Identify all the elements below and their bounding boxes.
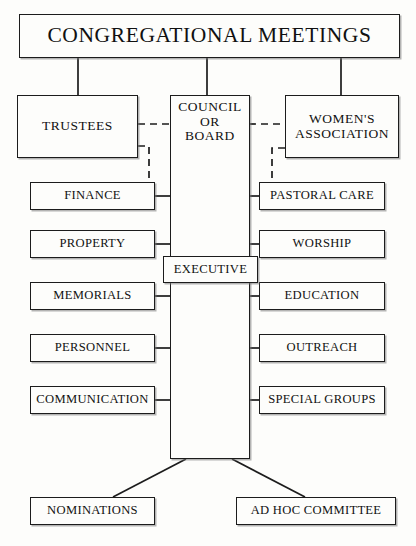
node-label-stack: COUNCIL OR BOARD: [178, 100, 242, 144]
node-label: OUTREACH: [287, 341, 358, 355]
node-pastoral-care[interactable]: PASTORAL CARE: [259, 182, 385, 210]
node-label: PROPERTY: [59, 237, 125, 251]
node-label: SPECIAL GROUPS: [268, 393, 376, 407]
node-label-line2: OR: [178, 115, 242, 130]
node-womens-association[interactable]: WOMEN'S ASSOCIATION: [285, 95, 399, 158]
node-label: MEMORIALS: [53, 289, 131, 303]
node-finance[interactable]: FINANCE: [30, 182, 155, 210]
node-label: TRUSTEES: [42, 119, 113, 134]
node-memorials[interactable]: MEMORIALS: [30, 282, 155, 310]
node-label: EXECUTIVE: [174, 263, 247, 277]
node-label-line2: ASSOCIATION: [295, 127, 389, 142]
org-chart: CONGREGATIONAL MEETINGS COUNCIL OR BOARD…: [0, 0, 416, 546]
node-communication[interactable]: COMMUNICATION: [30, 386, 155, 414]
node-education[interactable]: EDUCATION: [259, 282, 385, 310]
node-outreach[interactable]: OUTREACH: [259, 334, 385, 362]
node-personnel[interactable]: PERSONNEL: [30, 334, 155, 362]
edge-spine-nominations: [113, 459, 186, 497]
node-special-groups[interactable]: SPECIAL GROUPS: [259, 386, 385, 414]
node-label: EDUCATION: [285, 289, 360, 303]
node-trustees[interactable]: TRUSTEES: [17, 95, 138, 158]
node-label-line1: COUNCIL: [178, 100, 242, 115]
edge-trustees-finance: [138, 146, 149, 186]
node-label: PERSONNEL: [55, 341, 130, 355]
node-executive[interactable]: EXECUTIVE: [163, 256, 258, 283]
node-label-line3: BOARD: [178, 129, 242, 144]
node-property[interactable]: PROPERTY: [30, 230, 155, 258]
node-label: COMMUNICATION: [36, 393, 148, 407]
node-label: FINANCE: [64, 189, 121, 203]
node-worship[interactable]: WORSHIP: [259, 230, 385, 258]
node-label: WORSHIP: [293, 237, 352, 251]
node-label-stack: WOMEN'S ASSOCIATION: [295, 112, 389, 141]
node-label: PASTORAL CARE: [270, 189, 374, 203]
node-label: NOMINATIONS: [47, 504, 138, 518]
node-nominations[interactable]: NOMINATIONS: [30, 497, 155, 525]
node-congregational-meetings[interactable]: CONGREGATIONAL MEETINGS: [19, 14, 400, 58]
node-label: AD HOC COMMITTEE: [251, 504, 382, 518]
node-ad-hoc-committee[interactable]: AD HOC COMMITTEE: [236, 497, 396, 525]
node-label: CONGREGATIONAL MEETINGS: [47, 24, 371, 47]
edge-spine-ad-hoc: [232, 459, 305, 497]
node-label-line1: WOMEN'S: [295, 112, 389, 127]
edge-womens-pastoral-care: [272, 148, 285, 186]
